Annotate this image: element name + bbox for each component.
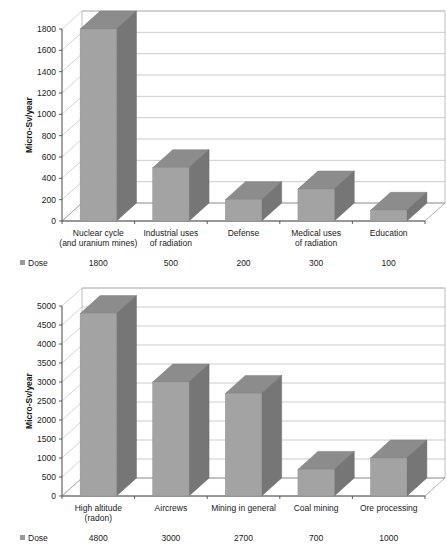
category-label-2: Defense xyxy=(228,228,260,238)
y-tick-label-4500: 4500 xyxy=(37,320,56,330)
side-connector-1000 xyxy=(62,96,82,114)
bar-2 xyxy=(225,375,281,496)
value-label-1: 500 xyxy=(164,258,178,268)
side-connector-1000 xyxy=(62,440,82,458)
category-label-1: Industrial uses xyxy=(143,228,198,238)
y-tick-label-400: 400 xyxy=(42,173,56,183)
legend-label: Dose xyxy=(28,258,48,268)
side-connector-5000 xyxy=(62,288,82,306)
side-connector-4000 xyxy=(62,326,82,344)
bar-1 xyxy=(153,364,209,496)
radiation-dose-charts-page: 020040060080010001200140016001800Micro-S… xyxy=(0,0,447,557)
y-tick-label-600: 600 xyxy=(42,152,56,162)
bar-0 xyxy=(80,11,136,221)
bar-3 xyxy=(298,451,354,496)
bar-front-face-0 xyxy=(80,314,116,496)
y-tick-label-1000: 1000 xyxy=(37,453,56,463)
bar-front-face-4 xyxy=(371,210,407,221)
side-connector-1800 xyxy=(62,11,82,29)
side-connector-600 xyxy=(62,139,82,157)
side-connector-2500 xyxy=(62,383,82,401)
y-axis-title: Micro-Sv/year xyxy=(24,96,34,152)
side-connector-400 xyxy=(62,160,82,178)
y-tick-label-5000: 5000 xyxy=(37,301,56,311)
category-label-3: Coal mining xyxy=(294,503,339,513)
bar-3 xyxy=(298,171,354,221)
side-connector-1400 xyxy=(62,54,82,72)
bar-front-face-3 xyxy=(298,469,334,496)
category-label-3: Medical uses xyxy=(291,228,341,238)
bar-side-face-1 xyxy=(189,364,209,496)
side-connector-800 xyxy=(62,118,82,136)
y-tick-label-1800: 1800 xyxy=(37,24,56,34)
category-label-4: Ore processing xyxy=(360,503,418,513)
chart-1-canvas: 020040060080010001200140016001800Micro-S… xyxy=(0,0,447,280)
value-label-0: 1800 xyxy=(89,258,108,268)
y-tick-label-0: 0 xyxy=(51,216,56,226)
y-tick-label-2500: 2500 xyxy=(37,396,56,406)
legend-swatch xyxy=(20,260,25,265)
legend-label: Dose xyxy=(28,533,48,543)
bar-front-face-4 xyxy=(371,458,407,496)
y-tick-label-1200: 1200 xyxy=(37,88,56,98)
side-connector-1600 xyxy=(62,32,82,50)
value-label-2: 200 xyxy=(236,258,250,268)
category-label-1: Aircrews xyxy=(155,503,188,513)
bar-front-face-3 xyxy=(298,189,334,221)
value-label-4: 1000 xyxy=(379,533,398,543)
y-tick-label-3500: 3500 xyxy=(37,358,56,368)
y-tick-label-1500: 1500 xyxy=(37,434,56,444)
bar-4 xyxy=(371,440,427,496)
y-tick-label-800: 800 xyxy=(42,131,56,141)
y-axis-title: Micro-Sv/year xyxy=(24,372,34,428)
category-label-sub-3: of radiation xyxy=(295,238,337,248)
side-connector-1200 xyxy=(62,75,82,93)
y-tick-label-200: 200 xyxy=(42,195,56,205)
side-connector-3500 xyxy=(62,345,82,363)
side-connector-1500 xyxy=(62,421,82,439)
category-label-2: Mining in general xyxy=(211,503,276,513)
category-label-4: Education xyxy=(370,228,408,238)
bar-front-face-1 xyxy=(153,168,189,221)
value-label-3: 700 xyxy=(309,533,323,543)
category-label-0: Nuclear cycle xyxy=(73,228,124,238)
bar-front-face-0 xyxy=(80,29,116,221)
side-connector-500 xyxy=(62,459,82,477)
y-tick-label-1400: 1400 xyxy=(37,67,56,77)
bar-side-face-2 xyxy=(262,375,282,496)
bar-side-face-0 xyxy=(116,11,136,221)
value-label-2: 2700 xyxy=(234,533,253,543)
category-label-0: High altitude xyxy=(75,503,123,513)
chart-2-canvas: 0500100015002000250030003500400045005000… xyxy=(0,280,447,557)
y-tick-label-3000: 3000 xyxy=(37,377,56,387)
y-tick-label-0: 0 xyxy=(51,491,56,501)
value-label-3: 300 xyxy=(309,258,323,268)
category-label-sub-0: (and uranium mines) xyxy=(59,238,137,248)
y-tick-label-4000: 4000 xyxy=(37,339,56,349)
legend-swatch xyxy=(20,535,25,540)
value-label-1: 3000 xyxy=(161,533,180,543)
side-connector-3000 xyxy=(62,364,82,382)
y-tick-label-2000: 2000 xyxy=(37,415,56,425)
value-label-0: 4800 xyxy=(89,533,108,543)
bar-4 xyxy=(371,192,427,221)
y-tick-label-1000: 1000 xyxy=(37,109,56,119)
bar-front-face-1 xyxy=(153,382,189,496)
y-tick-label-500: 500 xyxy=(42,472,56,482)
bar-0 xyxy=(80,296,136,496)
chart-natural-occupational-doses: 0500100015002000250030003500400045005000… xyxy=(0,280,447,557)
bar-side-face-0 xyxy=(116,296,136,496)
category-label-sub-0: (radon) xyxy=(85,513,113,523)
bar-front-face-2 xyxy=(225,200,261,221)
side-connector-4500 xyxy=(62,307,82,325)
bar-2 xyxy=(225,182,281,221)
bar-1 xyxy=(153,150,209,221)
value-label-4: 100 xyxy=(382,258,396,268)
bar-front-face-2 xyxy=(225,393,261,496)
chart-nuclear-industry-doses: 020040060080010001200140016001800Micro-S… xyxy=(0,0,447,280)
y-tick-label-1600: 1600 xyxy=(37,45,56,55)
side-connector-200 xyxy=(62,182,82,200)
side-connector-2000 xyxy=(62,402,82,420)
category-label-sub-1: of radiation xyxy=(150,238,192,248)
